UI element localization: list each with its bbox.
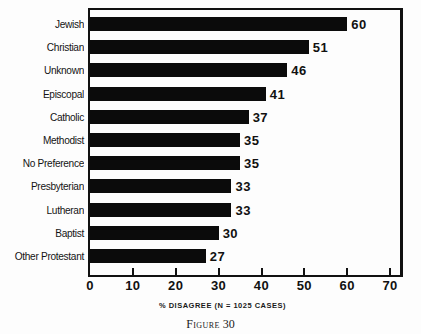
category-label: Lutheran: [10, 204, 84, 216]
category-label: Methodist: [10, 134, 84, 146]
x-axis-tick-mark: [346, 268, 348, 277]
bar-value-label: 33: [235, 204, 250, 218]
bar: [90, 226, 219, 240]
bar: [90, 133, 240, 147]
x-axis-tick-label: 0: [86, 278, 94, 293]
category-label: Catholic: [10, 111, 84, 123]
x-axis-tick-label: 40: [254, 278, 269, 293]
x-axis-tick-mark: [218, 268, 220, 277]
bar-value-label: 46: [291, 64, 306, 78]
x-axis: 010203040506070: [90, 277, 403, 303]
bar-value-label: 35: [244, 157, 259, 171]
x-axis-tick-label: 60: [340, 278, 355, 293]
bar-value-label: 60: [351, 18, 366, 32]
bar-value-label: 41: [270, 88, 285, 102]
bar: [90, 17, 347, 31]
figure-caption-word: Figure: [186, 317, 220, 331]
category-label: Baptist: [10, 227, 84, 239]
category-label: Jewish: [10, 18, 84, 30]
x-axis-tick-mark: [303, 268, 305, 277]
x-axis-tick-label: 20: [168, 278, 183, 293]
category-axis-labels: JewishChristianUnknownEpiscopalCatholicM…: [0, 8, 84, 277]
category-label: No Preference: [10, 157, 84, 169]
figure-caption-number: 30: [223, 317, 235, 331]
category-label: Episcopal: [10, 88, 84, 100]
x-axis-tick-mark: [175, 268, 177, 277]
bar: [90, 63, 287, 77]
x-axis-tick-label: 70: [382, 278, 397, 293]
figure-30-bar-chart: JewishChristianUnknownEpiscopalCatholicM…: [0, 0, 421, 334]
x-axis-tick-mark: [132, 268, 134, 277]
x-axis-title: % DISAGREE (N = 1025 CASES): [0, 301, 421, 310]
bar: [90, 249, 206, 263]
figure-caption: Figure30: [0, 317, 421, 332]
bar-value-label: 30: [223, 227, 238, 241]
x-axis-title-text: % DISAGREE (N = 1025 CASES): [159, 301, 286, 310]
x-axis-tick-label: 50: [297, 278, 312, 293]
category-label: Presbyterian: [10, 180, 84, 192]
bar-value-label: 35: [244, 134, 259, 148]
x-axis-tick-label: 30: [211, 278, 226, 293]
x-axis-tick-mark: [261, 268, 263, 277]
bar: [90, 156, 240, 170]
bar-value-label: 51: [313, 41, 328, 55]
bar: [90, 203, 231, 217]
category-label: Christian: [10, 41, 84, 53]
bar-value-label: 37: [253, 111, 268, 125]
bar: [90, 179, 231, 193]
bar: [90, 87, 266, 101]
bars-layer: 6051464137353533333027: [90, 8, 403, 277]
category-label: Unknown: [10, 64, 84, 76]
bar-value-label: 33: [235, 180, 250, 194]
x-axis-tick-mark: [389, 268, 391, 277]
bar: [90, 40, 309, 54]
category-label: Other Protestant: [10, 250, 84, 262]
x-axis-tick-label: 10: [125, 278, 140, 293]
bar-value-label: 27: [210, 250, 225, 264]
bar: [90, 110, 249, 124]
